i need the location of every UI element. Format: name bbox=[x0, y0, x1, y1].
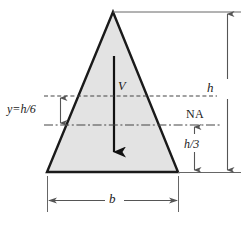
figure-canvas bbox=[0, 0, 249, 229]
neutral-axis-label: NA bbox=[186, 108, 204, 120]
base-width-label: b bbox=[109, 192, 116, 205]
shear-force-label: V bbox=[118, 80, 126, 93]
height-label: h bbox=[207, 81, 214, 94]
triangular-cross-section-figure: y=h/6 V h h/3 NA b bbox=[0, 0, 249, 229]
y-offset-label: y=h/6 bbox=[7, 103, 36, 115]
lower-height-label: h/3 bbox=[184, 138, 199, 150]
triangle-shape bbox=[47, 12, 178, 172]
